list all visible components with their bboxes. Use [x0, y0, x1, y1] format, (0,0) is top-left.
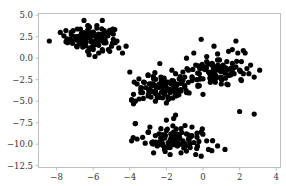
data-point [120, 50, 125, 55]
data-point [201, 66, 206, 71]
data-point [208, 77, 213, 82]
data-point [182, 75, 187, 80]
x-axis: −8−6−4−2024 [50, 168, 279, 183]
data-point [238, 77, 243, 82]
data-point [170, 80, 175, 85]
data-point [110, 41, 115, 46]
data-point [246, 71, 251, 76]
data-point [165, 88, 170, 93]
data-point [100, 34, 105, 39]
data-point [176, 142, 181, 147]
data-point [131, 101, 136, 106]
data-point [136, 76, 141, 81]
data-point [200, 132, 205, 137]
data-point [184, 88, 189, 93]
data-point [146, 130, 151, 135]
data-point [70, 41, 75, 46]
data-point [111, 27, 116, 32]
scatter-chart: −8−6−4−2024 5.02.50.0−2.5−5.0−7.5−10.0−1… [0, 0, 286, 186]
y-tick-label: 5.0 [19, 10, 33, 20]
data-point [225, 82, 230, 87]
data-point [83, 43, 88, 48]
y-tick-label: −5.0 [12, 96, 33, 106]
data-point [127, 69, 132, 74]
data-point [151, 150, 156, 155]
data-point [235, 50, 240, 55]
data-point [200, 126, 205, 131]
data-point [75, 26, 80, 31]
data-point [217, 57, 222, 62]
scatter-points [47, 18, 263, 159]
data-point [180, 69, 185, 74]
data-point [143, 141, 148, 146]
data-point [199, 154, 204, 159]
data-point [171, 116, 176, 121]
data-point [221, 65, 226, 70]
data-point [153, 84, 158, 89]
data-point [204, 138, 209, 143]
data-point [215, 143, 220, 148]
data-point [151, 74, 156, 79]
data-point [141, 79, 146, 84]
data-point [100, 18, 105, 23]
data-point [100, 48, 105, 53]
data-point [165, 126, 170, 131]
data-point [132, 80, 137, 85]
data-point [215, 51, 220, 56]
data-point [178, 150, 183, 155]
x-tick-label: −6 [87, 172, 100, 182]
data-point [194, 146, 199, 151]
data-point [80, 36, 85, 41]
data-point [157, 95, 162, 100]
data-point [87, 52, 92, 57]
x-tick-label: −4 [124, 172, 137, 182]
data-point [157, 61, 162, 66]
data-point [150, 139, 155, 144]
data-point [210, 138, 215, 143]
data-point [252, 75, 257, 80]
data-point [99, 26, 104, 31]
data-point [174, 126, 179, 131]
data-point [239, 59, 244, 64]
data-point [131, 92, 136, 97]
data-point [193, 152, 198, 157]
data-point [187, 138, 192, 143]
data-point [147, 124, 152, 129]
data-point [257, 68, 262, 73]
data-point [237, 109, 242, 114]
data-point [204, 54, 209, 59]
data-point [191, 50, 196, 55]
data-point [166, 145, 171, 150]
data-point [224, 59, 229, 64]
data-point [182, 123, 187, 128]
data-point [88, 39, 93, 44]
y-axis: 5.02.50.0−2.5−5.0−7.5−10.0−12.5 [7, 10, 39, 171]
data-point [248, 63, 253, 68]
data-point [200, 92, 205, 97]
x-tick-label: 4 [273, 172, 278, 182]
data-point [194, 135, 199, 140]
data-point [162, 136, 167, 141]
data-point [143, 85, 148, 90]
data-point [230, 47, 235, 52]
data-point [199, 37, 204, 42]
data-point [69, 32, 74, 37]
data-point [63, 28, 68, 33]
data-point [238, 69, 243, 74]
data-point [184, 56, 189, 61]
x-tick-label: 0 [200, 172, 205, 182]
data-point [101, 40, 106, 45]
y-tick-label: −7.5 [12, 118, 33, 128]
data-point [178, 74, 183, 79]
data-point [106, 47, 111, 52]
data-point [211, 44, 216, 49]
data-point [138, 90, 143, 95]
data-point [163, 149, 168, 154]
data-point [47, 38, 52, 43]
y-tick-label: 0.0 [19, 53, 33, 63]
data-point [150, 89, 155, 94]
data-point [92, 54, 97, 59]
data-point [164, 100, 169, 105]
data-point [252, 112, 257, 117]
data-point [184, 66, 189, 71]
